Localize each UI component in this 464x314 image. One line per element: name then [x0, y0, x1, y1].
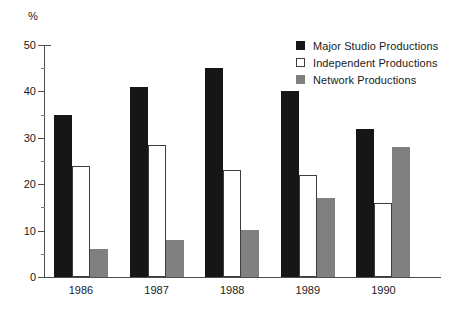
y-tick-major-40: [38, 91, 45, 92]
bar-group-1986: [54, 45, 108, 277]
bar-1988-indep: [223, 170, 241, 277]
bar-1986-indep: [72, 166, 90, 277]
legend-label-indep: Independent Productions: [313, 57, 438, 69]
bar-group-1987: [130, 45, 184, 277]
y-tick-major-50: [38, 45, 45, 46]
y-tick-label-50: 50: [4, 39, 36, 51]
y-tick-label-10: 10: [4, 225, 36, 237]
bar-1990-indep: [374, 203, 392, 277]
y-tick-label-20: 20: [4, 178, 36, 190]
bar-group-1988: [205, 45, 259, 277]
chart-legend: Major Studio ProductionsIndependent Prod…: [296, 38, 438, 89]
x-tick-label-1988: 1988: [202, 284, 262, 296]
x-tick-label-1986: 1986: [51, 284, 111, 296]
legend-item-indep[interactable]: Independent Productions: [296, 55, 438, 70]
bar-1989-major: [281, 91, 299, 277]
bar-1988-network: [241, 230, 259, 277]
y-tick-major-10: [38, 231, 45, 232]
legend-item-major[interactable]: Major Studio Productions: [296, 38, 438, 53]
legend-swatch-icon-major: [296, 41, 305, 50]
bar-1987-network: [166, 240, 184, 277]
legend-label-network: Network Productions: [313, 74, 416, 86]
bar-chart: % 01020304050 19861987198819891990 Major…: [0, 0, 464, 314]
y-tick-label-40: 40: [4, 85, 36, 97]
bar-1986-network: [90, 249, 108, 277]
bar-1987-major: [130, 87, 148, 277]
bar-1988-major: [205, 68, 223, 277]
x-tick-label-1989: 1989: [278, 284, 338, 296]
x-tick-label-1990: 1990: [353, 284, 413, 296]
bar-1986-major: [54, 115, 72, 277]
y-tick-major-0: [38, 277, 45, 278]
x-tick-label-1987: 1987: [127, 284, 187, 296]
legend-swatch-icon-network: [296, 75, 305, 84]
y-axis-tick-labels: 01020304050: [0, 0, 36, 314]
x-axis-line: [44, 277, 441, 278]
legend-item-network[interactable]: Network Productions: [296, 72, 438, 87]
bar-1989-indep: [299, 175, 317, 277]
bar-1990-major: [356, 129, 374, 277]
legend-swatch-icon-indep: [296, 58, 305, 67]
bar-1989-network: [317, 198, 335, 277]
y-tick-major-30: [38, 138, 45, 139]
bar-1990-network: [392, 147, 410, 277]
y-tick-label-30: 30: [4, 132, 36, 144]
y-tick-label-0: 0: [4, 271, 36, 283]
legend-label-major: Major Studio Productions: [313, 40, 438, 52]
y-tick-major-20: [38, 184, 45, 185]
bar-1987-indep: [148, 145, 166, 277]
